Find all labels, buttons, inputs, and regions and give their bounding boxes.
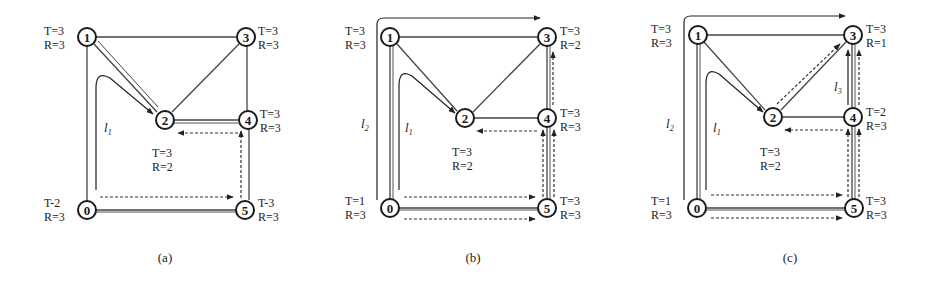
node-4: 4 xyxy=(538,109,556,127)
label-node-2-T: T=3 xyxy=(152,146,172,160)
svg-text:1: 1 xyxy=(84,30,91,45)
label-node-1-R: R=3 xyxy=(345,38,366,52)
caption-a: (a) xyxy=(158,250,172,265)
node-5: 5 xyxy=(236,201,254,219)
path-label-l1: l1 xyxy=(713,120,721,137)
label-node-1-R: R=3 xyxy=(44,38,65,52)
node-0: 0 xyxy=(78,201,96,219)
node-1: 1 xyxy=(78,28,96,46)
node-2: 2 xyxy=(764,108,782,126)
label-node-3-T: T=3 xyxy=(866,22,886,36)
svg-text:0: 0 xyxy=(694,201,701,216)
node-5: 5 xyxy=(538,199,556,217)
node-5: 5 xyxy=(845,199,863,217)
label-node-1-T: T=3 xyxy=(345,24,365,38)
label-node-3-R: R=1 xyxy=(866,36,887,50)
svg-text:5: 5 xyxy=(851,201,858,216)
label-node-4-T: T=2 xyxy=(866,105,886,119)
svg-text:1: 1 xyxy=(695,28,702,43)
caption-b: (b) xyxy=(465,250,480,265)
label-node-1-R: R=3 xyxy=(651,36,672,50)
node-4: 4 xyxy=(844,108,862,126)
svg-text:3: 3 xyxy=(544,30,551,45)
network-figure: l1 0 1 2 3 4 5 T=3 R=3 T=3 R=3 T=3 R=3 T… xyxy=(0,0,934,281)
label-node-4-R: R=3 xyxy=(866,119,887,133)
label-node-2-T: T=3 xyxy=(760,145,780,159)
node-0: 0 xyxy=(381,199,399,217)
label-node-3-T: T=3 xyxy=(560,24,580,38)
label-node-5-T: T=3 xyxy=(866,194,886,208)
label-node-4-R: R=3 xyxy=(260,121,281,135)
svg-text:0: 0 xyxy=(84,203,91,218)
label-node-2-R: R=2 xyxy=(452,159,473,173)
node-1: 1 xyxy=(689,26,707,44)
caption-c: (c) xyxy=(783,250,797,265)
svg-text:3: 3 xyxy=(243,30,250,45)
panel-c: l1 l2 l3 0 1 2 3 4 5 T=3 R=3 T=3 R=1 T=2… xyxy=(651,16,887,265)
label-node-5-R: R=3 xyxy=(866,208,887,222)
node-2: 2 xyxy=(156,111,174,129)
path-label-l1: l1 xyxy=(104,120,112,137)
label-node-3-R: R=3 xyxy=(258,38,279,52)
label-node-1-T: T=3 xyxy=(651,22,671,36)
svg-text:4: 4 xyxy=(544,111,551,126)
path-label-l3: l3 xyxy=(834,79,842,96)
path-label-l2: l2 xyxy=(361,116,369,133)
label-node-3-T: T=3 xyxy=(258,24,278,38)
svg-text:4: 4 xyxy=(850,110,857,125)
label-node-0-R: R=3 xyxy=(345,208,366,222)
label-node-5-R: R=3 xyxy=(560,208,581,222)
label-node-0-T: T=1 xyxy=(651,194,671,208)
label-node-4-R: R=3 xyxy=(560,120,581,134)
svg-text:0: 0 xyxy=(387,201,394,216)
svg-text:4: 4 xyxy=(245,113,252,128)
label-node-5-T: T=3 xyxy=(560,194,580,208)
label-node-5-T: T-3 xyxy=(258,196,274,210)
label-node-0-T: T-2 xyxy=(44,196,60,210)
label-node-1-T: T=3 xyxy=(44,24,64,38)
flow-2-3 xyxy=(777,44,840,104)
svg-text:5: 5 xyxy=(242,203,249,218)
svg-text:2: 2 xyxy=(162,113,169,128)
label-node-0-R: R=3 xyxy=(44,210,65,224)
node-4: 4 xyxy=(239,111,257,129)
label-node-2-R: R=2 xyxy=(152,160,173,174)
label-node-4-T: T=3 xyxy=(560,106,580,120)
node-3: 3 xyxy=(538,28,556,46)
path-label-l1: l1 xyxy=(405,120,413,137)
svg-text:3: 3 xyxy=(850,28,857,43)
path-label-l2: l2 xyxy=(666,116,674,133)
node-3: 3 xyxy=(237,28,255,46)
edge-1-2 xyxy=(94,44,157,112)
panel-a: l1 0 1 2 3 4 5 T=3 R=3 T=3 R=3 T=3 R=3 T… xyxy=(44,24,281,265)
edge-2-3 xyxy=(172,44,239,112)
svg-text:5: 5 xyxy=(544,201,551,216)
label-node-2-R: R=2 xyxy=(760,159,781,173)
label-node-0-T: T=1 xyxy=(345,194,365,208)
label-node-3-R: R=2 xyxy=(560,38,581,52)
edge-1-2-flow xyxy=(98,41,158,107)
label-node-5-R: R=3 xyxy=(258,210,279,224)
node-2: 2 xyxy=(456,109,474,127)
svg-text:1: 1 xyxy=(387,30,394,45)
label-node-4-T: T=3 xyxy=(260,107,280,121)
svg-text:2: 2 xyxy=(462,111,469,126)
node-1: 1 xyxy=(381,28,399,46)
svg-text:2: 2 xyxy=(770,110,777,125)
node-3: 3 xyxy=(844,26,862,44)
label-node-0-R: R=3 xyxy=(651,208,672,222)
label-node-2-T: T=3 xyxy=(452,145,472,159)
panel-b: l1 l2 0 1 2 3 4 5 T=3 R=3 T=3 R=2 T=3 R=… xyxy=(345,18,581,265)
node-0: 0 xyxy=(688,199,706,217)
